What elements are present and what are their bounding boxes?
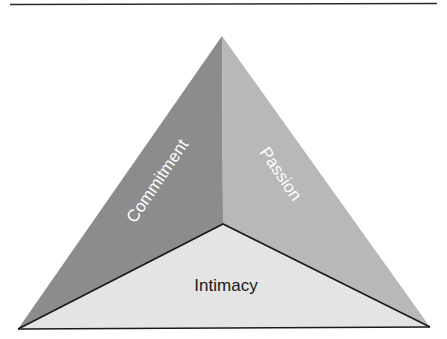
intimacy-label: Intimacy: [194, 276, 258, 295]
triangle-diagram: Commitment Passion Intimacy: [0, 0, 447, 339]
top-rule: [10, 4, 437, 5]
diagram-canvas: Commitment Passion Intimacy: [0, 0, 447, 339]
